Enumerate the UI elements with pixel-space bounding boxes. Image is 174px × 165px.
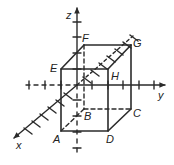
z-axis-label: z	[66, 10, 72, 21]
vertex-label-b: B	[84, 111, 91, 122]
vertex-label-h: H	[111, 71, 119, 82]
vertex-label-g: G	[133, 38, 142, 49]
x-axis	[14, 85, 77, 138]
vertex-label-f: F	[82, 33, 89, 44]
vertex-label-d: D	[106, 134, 114, 145]
y-axis-label: y	[158, 90, 164, 101]
prism-visible-edges	[61, 45, 131, 131]
vertex-label-a: A	[53, 134, 60, 145]
coordinate-diagram	[0, 0, 174, 165]
vertex-label-e: E	[50, 63, 57, 74]
x-axis-label: x	[16, 140, 22, 151]
vertex-label-c: C	[133, 108, 141, 119]
